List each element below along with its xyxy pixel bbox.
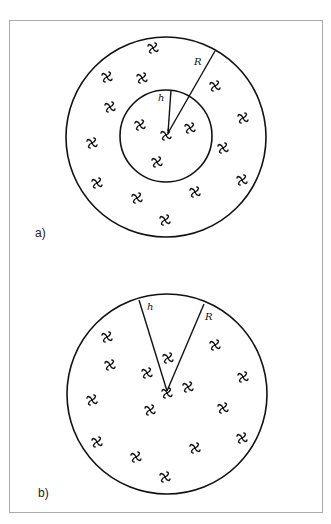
galaxy-icon [148, 43, 158, 53]
galaxy-icon [92, 178, 102, 188]
galaxy-icon [210, 81, 220, 91]
galaxy-icon [142, 368, 152, 378]
galaxy-icon [152, 157, 162, 167]
panel-b-diagram: hR [67, 294, 267, 494]
radius-label-R: R [204, 311, 213, 322]
galaxy-icon [87, 395, 97, 405]
galaxy-icon [102, 332, 112, 342]
radius-line-h [168, 90, 171, 133]
radius-label-R: R [193, 56, 202, 67]
panel-a-diagram: Rh [66, 37, 266, 237]
galaxy-icon [105, 360, 115, 370]
radius-label-h: h [147, 301, 153, 312]
radius-label-h: h [158, 92, 164, 103]
galaxy-icon [145, 405, 155, 415]
galaxy-icon [190, 187, 200, 197]
galaxy-icon [137, 73, 147, 83]
galaxy-icon [161, 130, 171, 140]
diagram-canvas: Rh hR [0, 0, 331, 524]
galaxy-icon [135, 120, 145, 130]
radius-line-R [168, 51, 215, 133]
galaxy-icon [160, 215, 170, 225]
galaxy-icon [131, 452, 141, 462]
galaxy-icon [238, 372, 248, 382]
galaxy-icon [237, 175, 247, 185]
galaxy-icon [218, 143, 228, 153]
galaxy-icon [238, 113, 248, 123]
galaxy-icon [190, 443, 200, 453]
galaxy-icon [183, 382, 193, 392]
radius-line-R [167, 304, 204, 391]
galaxy-icon [102, 72, 112, 82]
galaxy-icon [237, 433, 247, 443]
galaxy-icon [92, 437, 102, 447]
galaxy-icon [87, 138, 97, 148]
galaxy-icon [185, 123, 195, 133]
panel-a-label: a) [35, 226, 46, 240]
panel-b-label: b) [38, 486, 49, 500]
galaxy-icon [218, 403, 228, 413]
galaxy-icon [210, 340, 220, 350]
galaxy-icon [160, 472, 170, 482]
galaxy-icon [163, 353, 173, 363]
galaxy-icon [105, 102, 115, 112]
outer-circle [66, 37, 266, 237]
galaxy-icon [132, 193, 142, 203]
